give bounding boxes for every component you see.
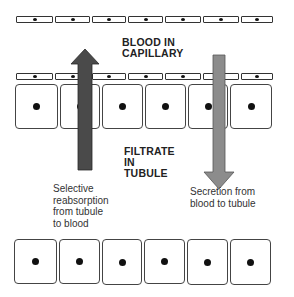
tubule-cell bbox=[187, 239, 228, 285]
nucleus bbox=[76, 258, 83, 265]
secretion-label: Secretion from blood to tubule bbox=[190, 186, 256, 209]
nucleus bbox=[119, 259, 126, 266]
secretion-arrow-down bbox=[204, 55, 234, 189]
tubule-cell bbox=[59, 239, 100, 284]
filtrate-in-tubule-label: FILTRATE IN TUBULE bbox=[124, 146, 175, 179]
nucleus bbox=[32, 258, 39, 265]
reabsorption-arrow-up bbox=[71, 49, 99, 170]
tubule-cell bbox=[230, 239, 271, 285]
nucleus bbox=[161, 258, 168, 265]
tubule-cell bbox=[102, 239, 142, 285]
tubule-cell bbox=[144, 239, 185, 284]
nucleus bbox=[204, 259, 211, 266]
reabsorption-label: Selective reabsorption from tubule to bl… bbox=[53, 183, 109, 229]
tubule-cell bbox=[14, 239, 57, 284]
nucleus bbox=[247, 259, 254, 266]
